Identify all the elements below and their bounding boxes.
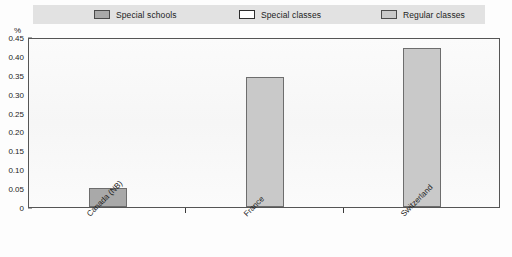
y-axis-tick-label: 0.40 bbox=[0, 52, 24, 61]
bar bbox=[246, 77, 284, 207]
legend-label: Regular classes bbox=[403, 10, 465, 20]
legend-item-special-schools: Special schools bbox=[94, 10, 177, 20]
plot-area bbox=[28, 38, 500, 208]
legend-label: Special schools bbox=[116, 10, 177, 20]
chart-legend: Special schools Special classes Regular … bbox=[33, 5, 485, 24]
bar-chart: % 0.450.400.350.300.250.200.150.100.050 … bbox=[0, 26, 512, 257]
legend-swatch-icon bbox=[94, 10, 110, 19]
y-axis-tick-label: 0.15 bbox=[0, 147, 24, 156]
y-axis-tick-label: 0.25 bbox=[0, 109, 24, 118]
x-axis-tick-labels: Canada (NB)FranceSwitzerland bbox=[28, 212, 500, 257]
bar bbox=[403, 48, 441, 207]
y-axis-tick-label: 0.45 bbox=[0, 34, 24, 43]
legend-item-special-classes: Special classes bbox=[239, 10, 321, 20]
y-axis-tick-label: 0.20 bbox=[0, 128, 24, 137]
legend-swatch-icon bbox=[239, 10, 255, 19]
y-axis-tick-label: 0.35 bbox=[0, 71, 24, 80]
y-axis-tick-label: 0.30 bbox=[0, 90, 24, 99]
legend-swatch-icon bbox=[381, 10, 397, 19]
y-axis-tick-label: 0 bbox=[0, 204, 24, 213]
legend-label: Special classes bbox=[261, 10, 321, 20]
y-axis-tick-label: 0.05 bbox=[0, 185, 24, 194]
legend-item-regular-classes: Regular classes bbox=[381, 10, 465, 20]
y-axis-tick-label: 0.10 bbox=[0, 166, 24, 175]
y-axis-tick-labels: 0.450.400.350.300.250.200.150.100.050 bbox=[0, 38, 24, 208]
